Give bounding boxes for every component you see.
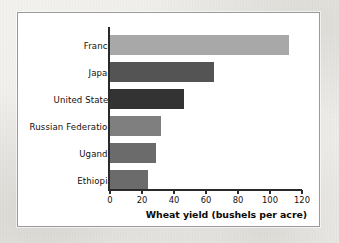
x-axis-tick-label-120: 120: [294, 195, 310, 205]
category-label-united-states: United States: [0, 95, 113, 105]
x-axis-tick-60: [205, 190, 206, 194]
x-axis-tick-label-40: 40: [169, 195, 180, 205]
x-axis-tick-40: [173, 190, 174, 194]
chart-figure-card: France Japan United States Russian Feder…: [17, 12, 320, 227]
page-background: France Japan United States Russian Feder…: [0, 0, 339, 243]
category-label-japan: Japan: [0, 68, 113, 78]
x-axis-title: Wheat yield (bushels per acre): [18, 209, 313, 220]
bar-uganda: [110, 143, 156, 163]
x-axis-tick-100: [269, 190, 270, 194]
x-axis-tick-120: [301, 190, 302, 194]
x-axis-tick-label-0: 0: [107, 195, 112, 205]
x-axis-tick-label-20: 20: [137, 195, 148, 205]
bar-france: [110, 35, 289, 55]
chart-plot-area: France Japan United States Russian Feder…: [18, 13, 319, 226]
bar-united-states: [110, 89, 184, 109]
category-label-ethiopia: Ethiopia: [0, 176, 113, 186]
category-label-france: France: [0, 41, 113, 51]
x-axis-tick-label-60: 60: [201, 195, 212, 205]
bar-ethiopia: [110, 170, 148, 190]
x-axis-tick-0: [109, 190, 110, 194]
x-axis-tick-20: [141, 190, 142, 194]
x-axis-tick-label-80: 80: [233, 195, 244, 205]
x-axis-tick-80: [237, 190, 238, 194]
category-label-uganda: Uganda: [0, 149, 113, 159]
bar-japan: [110, 62, 214, 82]
category-label-russian-federation: Russian Federation: [0, 122, 113, 132]
bar-russian-federation: [110, 116, 161, 136]
y-axis-line: [108, 27, 110, 190]
x-axis-tick-label-100: 100: [262, 195, 278, 205]
